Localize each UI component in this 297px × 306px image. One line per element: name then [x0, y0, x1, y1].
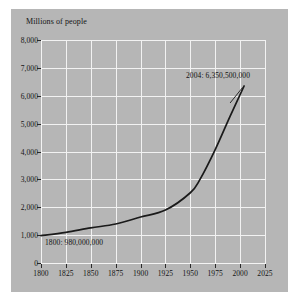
x-tick-mark: [165, 264, 166, 268]
y-tick-label: 1,000: [21, 231, 38, 240]
x-tick-mark: [240, 264, 241, 268]
x-axis-line: [41, 263, 266, 264]
x-tick-mark: [116, 264, 117, 268]
chart-figure: Millions of people 8,000 7,000 6,000 5,0…: [0, 0, 297, 306]
annotation-label-start: 1800: 980,000,000: [45, 238, 103, 247]
x-tick-mark: [190, 264, 191, 268]
y-tick-label: 8,000: [21, 36, 38, 45]
x-tick-label: 2025: [257, 269, 272, 278]
x-tick-mark: [141, 264, 142, 268]
y-axis-line: [41, 40, 42, 264]
x-tick-label: 1950: [183, 269, 198, 278]
x-tick-label: 1975: [207, 269, 222, 278]
y-tick-label: 6,000: [21, 92, 38, 101]
x-tick-mark: [265, 264, 266, 268]
gridline-horizontal: [41, 179, 265, 180]
gridline-horizontal: [41, 40, 265, 41]
gridline-horizontal: [41, 207, 265, 208]
y-axis-tick-labels: 8,000 7,000 6,000 5,000 4,000 3,000 2,00…: [0, 0, 38, 306]
x-tick-label: 1850: [83, 269, 98, 278]
y-tick-mark: [37, 207, 41, 208]
gridline-horizontal: [41, 96, 265, 97]
x-tick-label: 1900: [133, 269, 148, 278]
gridline-horizontal: [41, 124, 265, 125]
gridline-vertical: [265, 40, 266, 263]
x-tick-mark: [91, 264, 92, 268]
x-tick-mark: [66, 264, 67, 268]
y-tick-label: 3,000: [21, 175, 38, 184]
x-tick-label: 1825: [58, 269, 73, 278]
x-axis-tick-labels: 1800 1825 1850 1875 1900 1925 1950 1975 …: [0, 269, 297, 283]
x-tick-label: 1925: [158, 269, 173, 278]
gridline-horizontal: [41, 235, 265, 236]
x-tick-label: 2000: [232, 269, 247, 278]
gridline-horizontal: [41, 152, 265, 153]
y-tick-label: 5,000: [21, 120, 38, 129]
y-tick-mark: [37, 96, 41, 97]
gridline-horizontal: [41, 68, 265, 69]
y-tick-mark: [37, 179, 41, 180]
x-tick-label: 1800: [33, 269, 48, 278]
x-tick-label: 1875: [108, 269, 123, 278]
x-tick-mark: [215, 264, 216, 268]
y-tick-mark: [37, 152, 41, 153]
y-tick-label: 4,000: [21, 148, 38, 157]
annotation-label-end: 2004: 6,350,500,000: [186, 71, 250, 80]
y-tick-mark: [37, 235, 41, 236]
y-tick-mark: [37, 40, 41, 41]
y-tick-mark: [37, 68, 41, 69]
y-tick-label: 7,000: [21, 64, 38, 73]
y-tick-label: 2,000: [21, 203, 38, 212]
x-tick-mark: [41, 264, 42, 268]
y-tick-mark: [37, 124, 41, 125]
